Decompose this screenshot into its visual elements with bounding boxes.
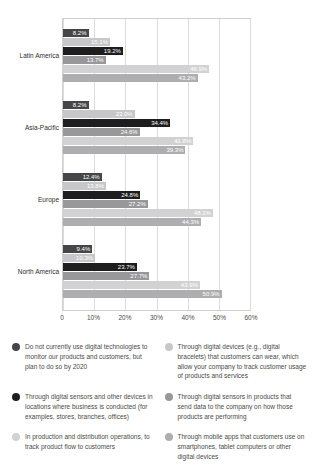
bars-container: 12.4%13.8%24.8%27.2%48.1%44.3% xyxy=(63,173,250,226)
bar-value-label: 8.2% xyxy=(73,101,89,109)
legend: Do not currently use digital technologie… xyxy=(12,342,307,462)
legend-item: Through digital sensors in products that… xyxy=(165,392,308,421)
bar-value-label: 41.8% xyxy=(174,137,193,145)
category-label: Europe xyxy=(1,196,59,203)
x-tick-label: 50% xyxy=(213,314,226,321)
legend-dot-icon xyxy=(165,393,173,401)
bar-series-5: 48.1% xyxy=(63,209,213,217)
bar-series-3: 19.2% xyxy=(63,47,123,55)
bar-value-label: 19.2% xyxy=(104,47,123,55)
bar-series-1: 12.4% xyxy=(63,173,102,181)
bar-series-4: 27.7% xyxy=(63,272,149,280)
bar-value-label: 48.1% xyxy=(194,209,213,217)
bar-series-3: 24.8% xyxy=(63,191,140,199)
bar-group: Europe12.4%13.8%24.8%27.2%48.1%44.3% xyxy=(63,173,250,226)
bar-value-label: 8.2% xyxy=(73,29,89,37)
bar-series-5: 41.8% xyxy=(63,137,193,145)
legend-dot-icon xyxy=(12,343,20,351)
legend-label: Through digital devices (e.g., digital b… xyxy=(178,342,308,381)
category-label: Latin America xyxy=(1,52,59,59)
bar-value-label: 43.2% xyxy=(179,74,198,82)
bar-value-label: 46.9% xyxy=(190,65,209,73)
bar-value-label: 27.7% xyxy=(130,272,149,280)
x-tick-label: 40% xyxy=(181,314,194,321)
plot-area: Latin America8.2%15.1%19.2%13.7%46.9%43.… xyxy=(62,18,251,311)
bar-group: Asia-Pacific8.2%23.0%34.4%24.6%41.8%39.3… xyxy=(63,101,250,154)
bar-value-label: 15.1% xyxy=(91,38,110,46)
bar-series-3: 23.7% xyxy=(63,263,137,271)
bar-value-label: 44.3% xyxy=(182,218,201,226)
x-tick-label: 20% xyxy=(118,314,131,321)
bar-series-6: 43.2% xyxy=(63,74,198,82)
bars-container: 8.2%23.0%34.4%24.6%41.8%39.3% xyxy=(63,101,250,154)
bar-series-4: 24.6% xyxy=(63,128,140,136)
bar-series-3: 34.4% xyxy=(63,119,170,127)
bar-series-1: 8.2% xyxy=(63,29,89,37)
bar-series-2: 23.0% xyxy=(63,110,135,118)
x-tick-label: 30% xyxy=(150,314,163,321)
legend-item: Do not currently use digital technologie… xyxy=(12,342,155,381)
x-tick-label: 60% xyxy=(244,314,257,321)
bar-group: Latin America8.2%15.1%19.2%13.7%46.9%43.… xyxy=(63,29,250,82)
bars-container: 8.2%15.1%19.2%13.7%46.9%43.2% xyxy=(63,29,250,82)
bar-value-label: 34.4% xyxy=(151,119,170,127)
bar-series-2: 15.1% xyxy=(63,38,110,46)
bar-series-1: 9.4% xyxy=(63,245,92,253)
legend-item: Through digital devices (e.g., digital b… xyxy=(165,342,308,381)
bar-series-1: 8.2% xyxy=(63,101,89,109)
bar-value-label: 23.0% xyxy=(116,110,135,118)
gridline xyxy=(250,19,251,310)
bar-value-label: 23.7% xyxy=(118,263,137,271)
bar-value-label: 24.8% xyxy=(121,191,140,199)
bar-series-2: 13.8% xyxy=(63,182,106,190)
bar-value-label: 39.3% xyxy=(166,146,185,154)
legend-label: Do not currently use digital technologie… xyxy=(25,342,155,371)
bar-series-5: 43.9% xyxy=(63,281,200,289)
x-tick-label: 0 xyxy=(60,314,64,321)
category-label: North America xyxy=(1,268,59,275)
bar-value-label: 24.6% xyxy=(121,128,140,136)
legend-dot-icon xyxy=(165,433,173,441)
bar-series-6: 50.9% xyxy=(63,290,222,298)
bar-value-label: 13.7% xyxy=(87,56,106,64)
bar-series-5: 46.9% xyxy=(63,65,209,73)
bar-value-label: 43.9% xyxy=(181,281,200,289)
legend-item: Through mobile apps that customers use o… xyxy=(165,432,308,461)
legend-item: In production and distribution operation… xyxy=(12,432,155,461)
bar-series-6: 44.3% xyxy=(63,218,201,226)
bar-value-label: 12.4% xyxy=(83,173,102,181)
legend-dot-icon xyxy=(12,393,20,401)
bar-series-2: 10.3% xyxy=(63,254,95,262)
legend-label: Through mobile apps that customers use o… xyxy=(178,432,308,461)
bar-series-4: 27.2% xyxy=(63,200,148,208)
bar-group: North America9.4%10.3%23.7%27.7%43.9%50.… xyxy=(63,245,250,298)
bar-value-label: 27.2% xyxy=(129,200,148,208)
legend-label: Through digital sensors in products that… xyxy=(178,392,308,421)
bar-series-4: 13.7% xyxy=(63,56,106,64)
legend-item: Through digital sensors and other device… xyxy=(12,392,155,421)
bar-series-6: 39.3% xyxy=(63,146,185,154)
legend-dot-icon xyxy=(165,343,173,351)
category-label: Asia-Pacific xyxy=(1,124,59,131)
x-axis: 010%20%30%40%50%60% xyxy=(62,314,251,326)
bars-container: 9.4%10.3%23.7%27.7%43.9%50.9% xyxy=(63,245,250,298)
legend-dot-icon xyxy=(12,433,20,441)
legend-label: In production and distribution operation… xyxy=(25,432,155,452)
bar-value-label: 13.8% xyxy=(87,182,106,190)
bar-value-label: 9.4% xyxy=(77,245,93,253)
bar-value-label: 10.3% xyxy=(76,254,95,262)
bar-value-label: 50.9% xyxy=(203,290,222,298)
x-tick-label: 10% xyxy=(87,314,100,321)
legend-label: Through digital sensors and other device… xyxy=(25,392,155,421)
bar-chart: Latin America8.2%15.1%19.2%13.7%46.9%43.… xyxy=(0,18,251,326)
